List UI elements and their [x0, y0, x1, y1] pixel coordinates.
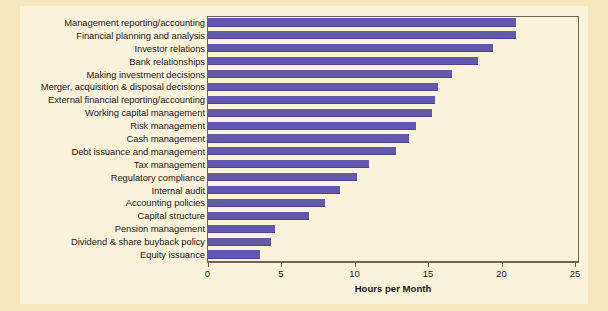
bar [208, 31, 517, 39]
bar-row: Merger, acquisition & disposal decisions [0, 80, 608, 93]
bar [208, 70, 452, 78]
x-axis-tick [208, 263, 209, 267]
bar-row: Investor relations [0, 42, 608, 55]
x-axis-tick-label: 15 [423, 268, 434, 279]
bar-category-label: Equity issuance [5, 249, 205, 260]
bar-track [208, 173, 358, 181]
bar-row: Equity issuance [0, 248, 608, 261]
bar [208, 160, 370, 168]
x-axis-tick [428, 263, 429, 267]
bar-row: Tax management [0, 158, 608, 171]
x-axis: 0510152025 [207, 262, 579, 264]
bar-track [208, 31, 517, 39]
bar-row: Internal audit [0, 184, 608, 197]
bar-track [208, 109, 433, 117]
bar-row: Risk management [0, 119, 608, 132]
bar-category-label: Investor relations [5, 43, 205, 54]
bar-category-label: Accounting policies [5, 197, 205, 208]
bar-category-label: Working capital management [5, 107, 205, 118]
bar-track [208, 238, 271, 246]
bar-category-label: Making investment decisions [5, 69, 205, 80]
bar-category-label: Pension management [5, 223, 205, 234]
chart-figure: Management reporting/accountingFinancial… [0, 0, 608, 311]
bar [208, 212, 309, 220]
bar-row: External financial reporting/accounting [0, 93, 608, 106]
bar-category-label: External financial reporting/accounting [5, 94, 205, 105]
bar-category-label: Cash management [5, 133, 205, 144]
x-axis-tick [502, 263, 503, 267]
bar-category-label: Tax management [5, 159, 205, 170]
bar [208, 18, 517, 26]
bar [208, 44, 493, 52]
bar [208, 147, 396, 155]
bar-row: Dividend & share buyback policy [0, 235, 608, 248]
bar [208, 250, 261, 258]
x-axis-tick-label: 20 [496, 268, 507, 279]
bar-row: Management reporting/accounting [0, 16, 608, 29]
bar [208, 109, 433, 117]
bar-track [208, 134, 409, 142]
bar-track [208, 44, 493, 52]
bar-track [208, 212, 309, 220]
bar-track [208, 225, 276, 233]
bar-track [208, 199, 326, 207]
bar-row: Cash management [0, 132, 608, 145]
bar-track [208, 96, 436, 104]
x-axis-tick [281, 263, 282, 267]
x-axis-tick-label: 25 [570, 268, 581, 279]
x-axis-tick [575, 263, 576, 267]
bar-track [208, 250, 261, 258]
bar-row: Bank relationships [0, 55, 608, 68]
bar-category-label: Merger, acquisition & disposal decisions [5, 81, 205, 92]
bar-category-label: Risk management [5, 120, 205, 131]
bar-row: Making investment decisions [0, 68, 608, 81]
bar [208, 96, 436, 104]
bar-track [208, 160, 370, 168]
bar [208, 199, 326, 207]
bar-category-label: Internal audit [5, 185, 205, 196]
bar-rows: Management reporting/accountingFinancial… [0, 16, 608, 262]
bar-row: Accounting policies [0, 196, 608, 209]
bar-track [208, 186, 340, 194]
bar [208, 83, 439, 91]
bar [208, 57, 478, 65]
x-axis-label: Hours per Month [207, 283, 579, 294]
bar [208, 186, 340, 194]
bar-category-label: Debt issuance and management [5, 146, 205, 157]
bar-track [208, 122, 417, 130]
bar-row: Capital structure [0, 209, 608, 222]
bar-category-label: Financial planning and analysis [5, 30, 205, 41]
x-axis-tick-label: 10 [349, 268, 360, 279]
bar-track [208, 147, 396, 155]
bar-category-label: Management reporting/accounting [5, 17, 205, 28]
bar-row: Pension management [0, 222, 608, 235]
x-axis-tick [355, 263, 356, 267]
bar-category-label: Bank relationships [5, 56, 205, 67]
x-axis-tick-label: 5 [278, 268, 283, 279]
bar-row: Working capital management [0, 106, 608, 119]
bar-track [208, 57, 478, 65]
bar-category-label: Capital structure [5, 210, 205, 221]
bar-row: Debt issuance and management [0, 145, 608, 158]
bar-track [208, 70, 452, 78]
bar [208, 225, 276, 233]
x-axis-tick-label: 0 [205, 268, 210, 279]
bar-track [208, 83, 439, 91]
bar [208, 238, 271, 246]
bar [208, 134, 409, 142]
bar-row: Financial planning and analysis [0, 29, 608, 42]
bar-track [208, 18, 517, 26]
bar [208, 173, 358, 181]
bar-category-label: Dividend & share buyback policy [5, 236, 205, 247]
bar-row: Regulatory compliance [0, 171, 608, 184]
bar [208, 122, 417, 130]
bar-category-label: Regulatory compliance [5, 172, 205, 183]
